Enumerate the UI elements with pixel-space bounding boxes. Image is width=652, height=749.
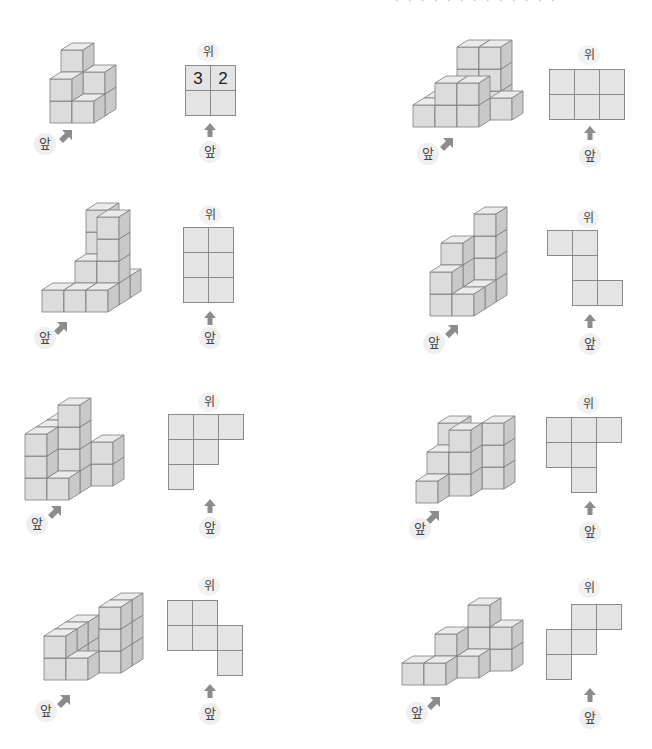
- cube: [457, 649, 490, 678]
- top-view-title: 위: [578, 578, 600, 598]
- top-view-cell[interactable]: [546, 654, 572, 680]
- top-view-cell[interactable]: [571, 604, 597, 630]
- top-view-cell[interactable]: [546, 629, 572, 655]
- top-view-cell[interactable]: [571, 629, 597, 655]
- top-view-cell[interactable]: [596, 604, 622, 630]
- front-arrow-icon: [425, 694, 443, 712]
- cube: [468, 598, 501, 627]
- top-view-front-label: 앞: [579, 707, 601, 729]
- cube: [435, 627, 468, 656]
- front-label: 앞: [406, 702, 428, 724]
- cube: [490, 620, 523, 649]
- up-arrow-icon: [583, 687, 597, 703]
- cube: [424, 656, 457, 685]
